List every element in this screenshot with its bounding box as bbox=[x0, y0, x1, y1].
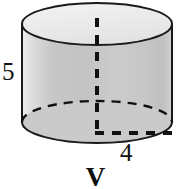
height-dimension-label: 5 bbox=[2, 59, 15, 84]
figure-caption: V bbox=[0, 162, 191, 189]
figure-canvas: 5 4 V bbox=[0, 0, 191, 189]
cylinder-diagram bbox=[0, 0, 191, 189]
